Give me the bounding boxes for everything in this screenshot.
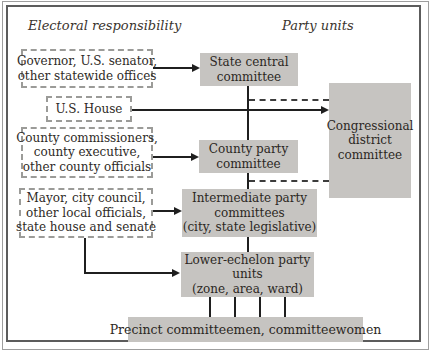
county-party-line1: County party (209, 142, 288, 156)
connector-lower-precinct-line-4 (284, 297, 286, 318)
box-county-party-committee: County party committee (199, 140, 298, 173)
arrow-governor-to-statecentral-head (192, 64, 200, 72)
congressional-line3: committee (338, 148, 402, 162)
arrow-county-to-countyparty-line (152, 156, 192, 158)
box-county-line3: other county officials (23, 160, 152, 175)
arrow-mayor-to-intermediate-head (174, 207, 182, 215)
precinct-line1: Precinct committeemen, committeewomen (110, 322, 382, 337)
arrow-mayor-to-lowerechelon-head (172, 269, 180, 277)
arrow-county-to-countyparty-head (191, 153, 199, 161)
intermediate-line3: (city, state legislative) (183, 220, 317, 234)
connector-lower-precinct-line-3 (259, 297, 261, 318)
box-lower-echelon-party-units: Lower-echelon party units (zone, area, w… (181, 252, 314, 297)
box-governor-line2: other statewide offices (18, 69, 157, 84)
box-county-line1: County commissioners, (16, 131, 158, 146)
title-electoral-responsibility: Electoral responsibility (28, 18, 181, 33)
box-mayor-line1: Mayor, city council, (26, 191, 145, 206)
arrow-mayor-to-intermediate-line (152, 210, 175, 212)
arrow-governor-to-statecentral-line (152, 67, 193, 69)
arrow-mayor-to-lowerechelon-line (84, 272, 173, 274)
connector-mayor-down-line (84, 238, 86, 274)
arrow-ushouse-to-congressional-line (131, 109, 322, 111)
box-us-house: U.S. House (46, 96, 132, 122)
box-us-house-line1: U.S. House (56, 102, 123, 117)
title-party-units: Party units (282, 18, 354, 33)
congressional-line1: Congressional (327, 119, 414, 133)
box-county-line2: county executive, (34, 145, 141, 160)
box-governor-line1: Governor, U.S. senator, (17, 54, 157, 69)
diagram-canvas: Electoral responsibility Party units Gov… (0, 0, 435, 356)
intermediate-line2: committees (214, 206, 285, 220)
box-mayor-line3: state house and senate (16, 220, 156, 235)
connector-lower-precinct-line-2 (234, 297, 236, 318)
county-party-line2: committee (216, 157, 280, 171)
box-state-central-committee: State central committee (200, 53, 298, 86)
connector-dashed-countyparty-congressional (249, 180, 329, 182)
lower-echelon-line3: (zone, area, ward) (192, 282, 303, 296)
box-congressional-district-committee: Congressional district committee (329, 83, 411, 198)
state-central-line1: State central (209, 55, 288, 69)
lower-echelon-line2: units (232, 267, 262, 281)
box-governor-statewide: Governor, U.S. senator, other statewide … (21, 49, 153, 88)
box-mayor-local: Mayor, city council, other local officia… (19, 188, 153, 238)
congressional-line2: district (348, 133, 392, 147)
box-mayor-line2: other local officials, (26, 206, 146, 221)
box-intermediate-party-committees: Intermediate party committees (city, sta… (182, 189, 317, 237)
state-central-line2: committee (217, 70, 281, 84)
box-precinct-committeemen: Precinct committeemen, committeewomen (128, 317, 363, 342)
arrow-ushouse-to-congressional-head (321, 106, 329, 114)
connector-dashed-statecentral-congressional (249, 99, 329, 101)
intermediate-line1: Intermediate party (192, 191, 307, 205)
connector-lower-precinct-line-1 (209, 297, 211, 318)
lower-echelon-line1: Lower-echelon party (185, 253, 311, 267)
box-county-officials: County commissioners, county executive, … (21, 127, 153, 178)
